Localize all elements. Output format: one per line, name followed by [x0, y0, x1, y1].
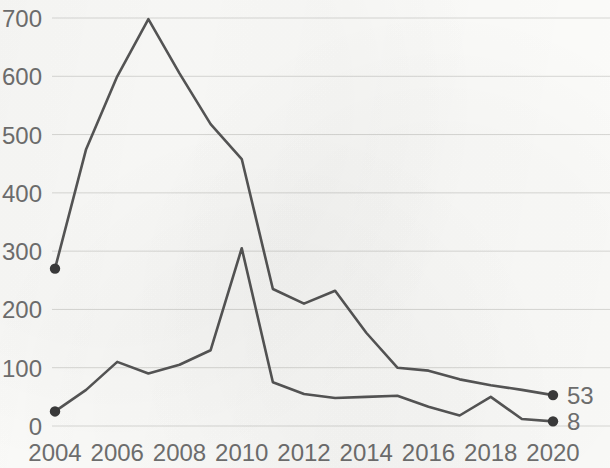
end-value-label-series-2: 8	[567, 408, 580, 435]
series-group	[55, 19, 553, 421]
end-value-label-series-1: 53	[567, 382, 594, 409]
end-value-labels: 538	[567, 382, 594, 435]
y-tick-label-600: 600	[2, 63, 42, 90]
end-marker-series-2	[548, 416, 558, 426]
y-tick-label-700: 700	[2, 5, 42, 32]
line-chart: 0100200300400500600700 20042006200820102…	[0, 0, 610, 468]
x-tick-label-2006: 2006	[91, 439, 144, 466]
series-line-2	[55, 248, 553, 421]
y-axis-tick-labels: 0100200300400500600700	[2, 5, 42, 440]
series-line-1	[55, 19, 553, 395]
chart-canvas: 0100200300400500600700 20042006200820102…	[0, 0, 610, 468]
y-tick-label-500: 500	[2, 122, 42, 149]
x-tick-label-2008: 2008	[153, 439, 206, 466]
x-tick-label-2004: 2004	[28, 439, 81, 466]
x-tick-label-2020: 2020	[526, 439, 579, 466]
start-marker-series-1	[50, 263, 60, 273]
y-tick-label-100: 100	[2, 355, 42, 382]
x-tick-label-2012: 2012	[277, 439, 330, 466]
y-tick-label-0: 0	[29, 413, 42, 440]
x-tick-label-2014: 2014	[340, 439, 393, 466]
x-tick-label-2010: 2010	[215, 439, 268, 466]
y-tick-label-400: 400	[2, 180, 42, 207]
y-tick-label-300: 300	[2, 238, 42, 265]
gridline-group	[52, 18, 610, 426]
start-marker-series-2	[50, 406, 60, 416]
x-tick-label-2018: 2018	[464, 439, 517, 466]
end-marker-series-1	[548, 390, 558, 400]
y-tick-label-200: 200	[2, 296, 42, 323]
x-tick-label-2016: 2016	[402, 439, 455, 466]
x-axis-tick-labels: 200420062008201020122014201620182020	[28, 439, 579, 466]
